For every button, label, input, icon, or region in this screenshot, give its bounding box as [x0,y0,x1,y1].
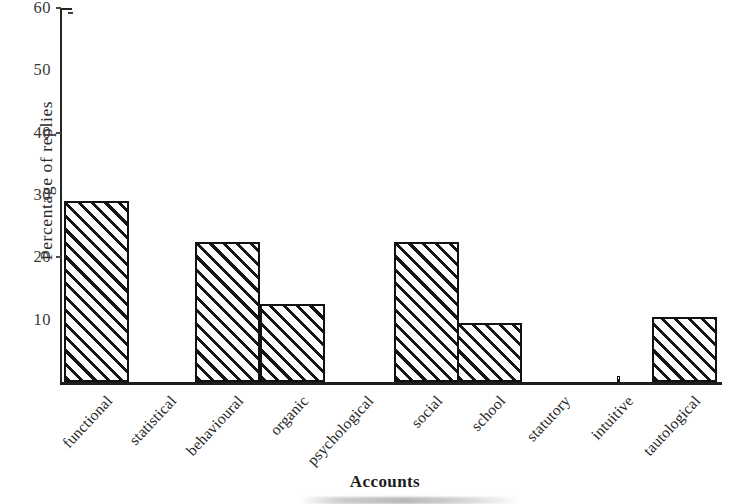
x-tick-organic: organic [266,392,312,439]
y-tick-label: 10 [7,310,51,330]
y-tick-mark [56,132,61,134]
y-axis-line [60,8,62,384]
bar-organic [260,304,325,382]
y-tick-label: 50 [7,60,51,80]
x-tick-intuitive: intuitive [587,392,637,443]
x-axis-title: Accounts [0,472,742,492]
bar-chart: Percentage of replies 60 50 40 30 20 10 … [0,0,742,504]
bar-intuitive [617,376,620,382]
x-tick-statistical: statistical [125,392,180,449]
x-tick-social: social [407,392,446,432]
bar-functional [64,201,129,382]
y-tick-mark [56,7,61,9]
y-tick-label: 20 [7,247,51,267]
bar-school [457,323,522,382]
y-axis-title: Percentage of replies [36,51,57,311]
y-tick-label: 60 [7,0,51,18]
x-tick-statutory: statutory [522,392,573,445]
x-tick-psychological: psychological [303,392,377,469]
y-axis-top-tick-dash [68,12,73,14]
plot-area: 60 50 40 30 20 10 functionalstatisticalb… [60,8,722,384]
x-axis-title-text: Accounts [322,472,420,491]
x-tick-school: school [467,392,509,435]
y-tick-label: 40 [7,123,51,143]
bar-behavioural [195,242,260,382]
x-tick-tautological: tautological [639,392,704,460]
bar-tautological [652,317,717,382]
y-axis-top-tick [61,8,72,10]
x-tick-functional: functional [58,392,115,452]
y-tick-mark [56,256,61,258]
bar-social [394,242,459,382]
x-tick-behavioural: behavioural [182,392,247,459]
x-axis-line [60,382,722,385]
y-tick-label: 30 [7,185,51,205]
scan-artifact [300,497,520,504]
